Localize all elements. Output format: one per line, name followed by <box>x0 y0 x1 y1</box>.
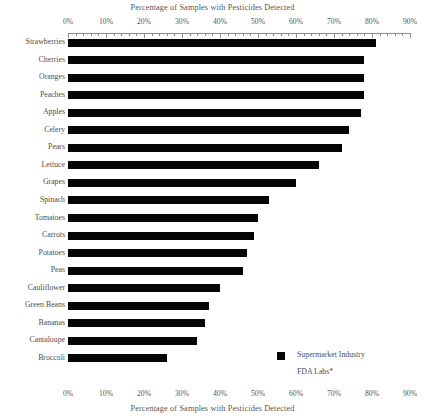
chart-row: Bananas <box>0 315 425 332</box>
x-tick-label: 80% <box>365 17 379 26</box>
x-tick-label: 70% <box>327 389 341 398</box>
bar-carrots <box>68 232 254 240</box>
chart-row: Peaches <box>0 87 425 104</box>
bar-strawberries <box>68 39 376 47</box>
category-label: Apples <box>0 107 65 116</box>
x-axis-ticks-bottom: 0%10%20%30%40%50%60%70%80%90% <box>0 389 425 400</box>
category-label: Strawberries <box>0 37 65 46</box>
category-label: Broccoli <box>0 353 65 362</box>
x-tick-label: 10% <box>99 17 113 26</box>
x-tick-label: 40% <box>213 389 227 398</box>
chart-row: Lettuce <box>0 157 425 174</box>
chart-title-bottom: Percentage of Samples with Pesticides De… <box>0 404 425 413</box>
category-label: Celery <box>0 125 65 134</box>
category-label: Spinach <box>0 195 65 204</box>
bar-spinach <box>68 196 269 204</box>
category-label: Bananas <box>0 318 65 327</box>
bar-cantaloupe <box>68 337 197 345</box>
chart-row: Peas <box>0 262 425 279</box>
legend-label: Supermarket Industry <box>297 350 365 359</box>
x-tick-label: 50% <box>251 17 265 26</box>
legend-label: FDA Labs* <box>297 367 333 376</box>
category-label: Cherries <box>0 55 65 64</box>
bar-peas <box>68 267 243 275</box>
bar-broccoli <box>68 354 167 362</box>
chart-row: Carrots <box>0 227 425 244</box>
x-tick-label: 20% <box>137 389 151 398</box>
chart-row: Potatoes <box>0 245 425 262</box>
category-label: Grapes <box>0 177 65 186</box>
chart-row: Green Beans <box>0 297 425 314</box>
legend-item: Supermarket Industry <box>277 349 425 366</box>
x-tick-label: 60% <box>289 17 303 26</box>
chart-row: Cantaloupe <box>0 332 425 349</box>
chart-title-top: Percentage of Samples with Pesticides De… <box>0 3 425 12</box>
legend-swatch-icon <box>277 352 285 360</box>
bar-grapes <box>68 179 296 187</box>
chart-row: Cherries <box>0 52 425 69</box>
bar-peaches <box>68 91 364 99</box>
x-tick-label: 30% <box>175 389 189 398</box>
x-tick-label: 40% <box>213 17 227 26</box>
x-tick-label: 90% <box>403 17 417 26</box>
chart-row: Grapes <box>0 174 425 191</box>
category-label: Cauliflower <box>0 283 65 292</box>
category-label: Pears <box>0 142 65 151</box>
category-label: Oranges <box>0 72 65 81</box>
plot-area: StrawberriesCherriesOrangesPeachesApples… <box>0 34 425 384</box>
bar-apples <box>68 109 361 117</box>
bar-tomatoes <box>68 214 258 222</box>
x-tick-label: 30% <box>175 17 189 26</box>
category-label: Potatoes <box>0 248 65 257</box>
x-tick-label: 90% <box>403 389 417 398</box>
x-tick-label: 10% <box>99 389 113 398</box>
bar-pears <box>68 144 342 152</box>
bar-bananas <box>68 319 205 327</box>
x-tick-label: 0% <box>63 389 73 398</box>
category-label: Peaches <box>0 90 65 99</box>
chart-row: Oranges <box>0 69 425 86</box>
x-tick-label: 70% <box>327 17 341 26</box>
chart-row: Tomatoes <box>0 210 425 227</box>
bar-green-beans <box>68 302 209 310</box>
bar-oranges <box>68 74 364 82</box>
chart-row: Spinach <box>0 192 425 209</box>
chart-row: Cauliflower <box>0 280 425 297</box>
x-tick-label: 20% <box>137 17 151 26</box>
chart-row: Strawberries <box>0 34 425 51</box>
chart-row: Apples <box>0 104 425 121</box>
category-label: Tomatoes <box>0 213 65 222</box>
x-tick-label: 60% <box>289 389 303 398</box>
chart-legend: Supermarket IndustryFDA Labs* <box>277 349 425 383</box>
x-axis-ticks-top: 0%10%20%30%40%50%60%70%80%90% <box>0 17 425 28</box>
category-label: Green Beans <box>0 300 65 309</box>
category-label: Peas <box>0 265 65 274</box>
pesticide-bar-chart: Percentage of Samples with Pesticides De… <box>0 0 425 420</box>
category-label: Cantaloupe <box>0 335 65 344</box>
bar-celery <box>68 126 349 134</box>
x-tick-label: 0% <box>63 17 73 26</box>
legend-item: FDA Labs* <box>277 366 425 383</box>
bar-potatoes <box>68 249 247 257</box>
x-tick-label: 80% <box>365 389 379 398</box>
x-tick-label: 50% <box>251 389 265 398</box>
bar-cauliflower <box>68 284 220 292</box>
category-label: Lettuce <box>0 160 65 169</box>
chart-row: Celery <box>0 122 425 139</box>
chart-row: Pears <box>0 139 425 156</box>
bar-cherries <box>68 56 364 64</box>
category-label: Carrots <box>0 230 65 239</box>
bar-lettuce <box>68 161 319 169</box>
